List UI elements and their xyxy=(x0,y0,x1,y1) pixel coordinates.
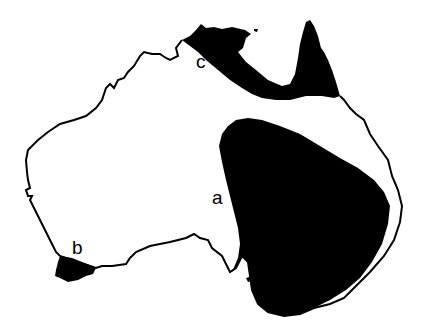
region-a-shape xyxy=(219,118,390,316)
region-label-b: b xyxy=(72,238,83,257)
australia-map xyxy=(0,0,423,322)
region-b-shape xyxy=(55,256,96,282)
region-label-a: a xyxy=(212,188,223,207)
region-label-c: c xyxy=(196,52,206,71)
island-dot xyxy=(254,29,258,32)
region-c-shape xyxy=(182,20,340,100)
